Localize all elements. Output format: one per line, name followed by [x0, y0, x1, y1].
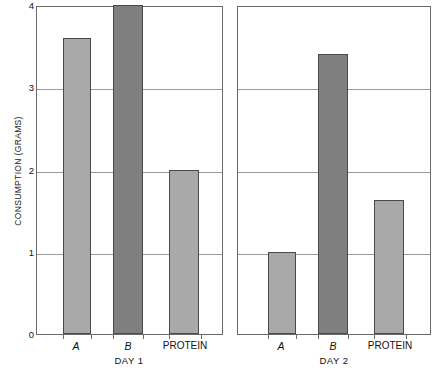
x-tickmark-day2-6	[406, 334, 407, 339]
y-tick-4: 4	[20, 1, 34, 11]
y-axis-ticks: 4 3 2 1 0	[18, 0, 34, 368]
y-tick-2: 2	[20, 166, 34, 176]
x-tickmark-day2-5	[374, 334, 375, 339]
x-tickmark-day1-2	[91, 334, 92, 339]
x-label-day2-a: A	[277, 340, 284, 352]
panel-day-1	[36, 6, 223, 335]
x-tickmark-day2-3	[318, 334, 319, 339]
x-label-day1-protein: PROTEIN	[163, 340, 207, 351]
x-tickmark-day1-4	[143, 334, 144, 339]
x-label-day1-b: B	[124, 340, 131, 352]
bar-day1-protein	[169, 170, 199, 335]
x-tickmark-day1-6	[201, 334, 202, 339]
y-tick-3: 3	[20, 83, 34, 93]
x-tickmark-day1-1	[63, 334, 64, 339]
bar-day2-a	[268, 252, 296, 334]
bar-day2-protein	[374, 200, 404, 334]
x-tickmark-day1-5	[169, 334, 170, 339]
y-tick-1: 1	[20, 248, 34, 258]
bar-day2-b	[318, 54, 348, 334]
x-tickmark-day2-1	[268, 334, 269, 339]
x-tickmark-day1-3	[113, 334, 114, 339]
plot-area-day-2	[238, 7, 430, 334]
x-label-day2-protein: PROTEIN	[368, 340, 412, 351]
panel-day-2	[237, 6, 431, 335]
chart-figure: CONSUMPTION (GRAMS) 4 3 2 1 0 A B PROTEI…	[0, 0, 435, 368]
plot-area-day-1	[37, 7, 222, 334]
bar-day1-a	[63, 38, 91, 334]
y-tick-0: 0	[20, 330, 34, 340]
x-tickmark-day2-2	[296, 334, 297, 339]
panel-title-day-2: DAY 2	[319, 355, 348, 366]
x-label-day1-a: A	[72, 340, 79, 352]
bar-day1-b	[113, 5, 143, 334]
x-tickmark-day2-4	[348, 334, 349, 339]
panel-title-day-1: DAY 1	[114, 355, 143, 366]
x-label-day2-b: B	[329, 340, 336, 352]
